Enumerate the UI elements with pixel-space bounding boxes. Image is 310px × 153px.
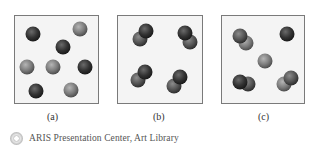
panel-a-label: (a): [47, 111, 58, 122]
atom: [73, 22, 88, 37]
cd-disc-icon: [10, 132, 23, 145]
atom: [46, 60, 61, 75]
atom: [64, 83, 79, 98]
molecule-atom: [178, 26, 193, 41]
molecule-atom: [233, 75, 248, 90]
molecule-atom: [173, 70, 188, 85]
panel-c: [222, 16, 305, 104]
panel-a: [15, 16, 99, 104]
molecule-atom: [139, 24, 154, 39]
atom: [20, 60, 35, 75]
panel-b-label: (b): [153, 111, 165, 122]
atom: [280, 27, 295, 42]
credit-text: ARIS Presentation Center, Art Library: [29, 133, 179, 143]
atom: [78, 60, 93, 75]
molecule-atom: [138, 65, 153, 80]
atom: [26, 27, 41, 42]
atom: [56, 40, 71, 55]
atom: [29, 84, 44, 99]
atom: [258, 54, 273, 69]
molecule-atom: [233, 29, 248, 44]
panel-c-label: (c): [258, 111, 269, 122]
molecule-atom: [284, 71, 299, 86]
panel-b: [118, 16, 203, 104]
credit-line: ARIS Presentation Center, Art Library: [10, 131, 179, 145]
